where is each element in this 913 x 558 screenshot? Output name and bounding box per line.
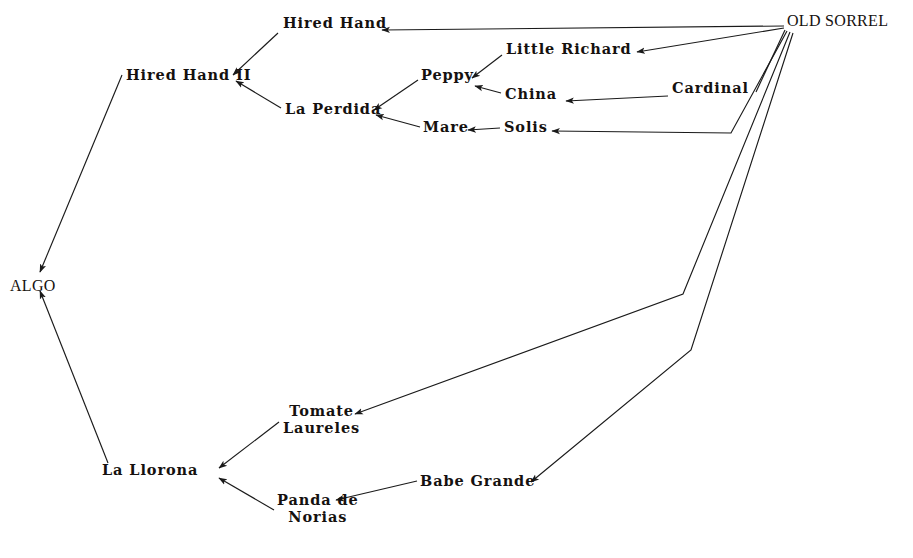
node-hired_hand: Hired Hand: [283, 15, 387, 32]
edge-cardinal-to-china: [566, 96, 668, 101]
edge-solis-to-mare: [468, 128, 500, 130]
node-panda: Panda de Norias: [277, 492, 359, 526]
edge-panda-to-la_llorona: [219, 478, 274, 510]
node-china: China: [505, 86, 557, 103]
node-solis: Solis: [504, 119, 548, 136]
node-mare: Mare: [423, 119, 469, 136]
node-old_sorrel: OLD SORREL: [787, 12, 888, 31]
pedigree-diagram: OLD SORRELHired HandLittle RichardHired …: [0, 0, 913, 558]
edge-la_perdida-to-hired_hand_ii: [236, 81, 281, 108]
edge-mare-to-la_perdida: [376, 115, 420, 127]
node-babe_grande: Babe Grande: [420, 473, 535, 490]
edge-china-to-peppy: [475, 86, 501, 93]
edge-little_richard-to-peppy: [472, 55, 502, 78]
node-algo: ALGO: [10, 277, 56, 296]
node-cardinal: Cardinal: [672, 80, 749, 97]
node-peppy: Peppy: [421, 67, 474, 84]
edge-old_sorrel-to-little_richard: [637, 28, 784, 52]
edge-hired_hand_ii-to-algo: [40, 75, 122, 272]
edge-la_llorona-to-algo: [40, 291, 108, 463]
node-la_perdida: La Perdida: [285, 101, 381, 118]
node-tomate: Tomate Laureles: [283, 403, 360, 437]
edge-old_sorrel-to-hired_hand: [382, 26, 784, 30]
edge-tomate-to-la_llorona: [219, 422, 279, 468]
node-hired_hand_ii: Hired Hand II: [126, 67, 251, 84]
node-little_richard: Little Richard: [506, 41, 632, 58]
node-la_llorona: La Llorona: [102, 462, 198, 479]
